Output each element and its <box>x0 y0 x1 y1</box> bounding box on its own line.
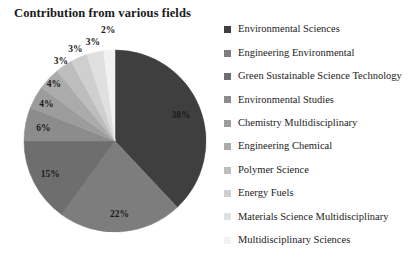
legend-swatch-icon <box>224 143 231 150</box>
legend-item[interactable]: Environmental Studies <box>224 88 418 111</box>
legend-item-label: Multidisciplinary Sciences <box>238 235 350 246</box>
pie-svg: 38%22%15%6%4%4%3%3%3%2% <box>0 0 220 258</box>
legend-item-label: Engineering Environmental <box>238 48 354 59</box>
legend-swatch-icon <box>224 190 231 197</box>
pie-chart-figure: Contribution from various fields 38%22%1… <box>0 0 418 258</box>
legend-item-label: Chemistry Multidisciplinary <box>238 118 357 129</box>
legend-item[interactable]: Chemistry Multidisciplinary <box>224 112 418 135</box>
legend-item-label: Energy Fuels <box>238 188 294 199</box>
pie-slice-label: 2% <box>101 25 115 35</box>
legend-swatch-icon <box>224 73 231 80</box>
pie-slice-label: 22% <box>110 209 129 219</box>
legend-swatch-icon <box>224 120 231 127</box>
pie-slice-label: 3% <box>54 56 68 66</box>
legend-swatch-icon <box>224 237 231 244</box>
legend-item[interactable]: Energy Fuels <box>224 182 418 205</box>
legend-item-label: Materials Science Multidisciplinary <box>238 212 388 223</box>
legend-swatch-icon <box>224 50 231 57</box>
pie-slice-label: 15% <box>41 169 60 179</box>
legend-item[interactable]: Polymer Science <box>224 158 418 181</box>
legend-swatch-icon <box>224 96 231 103</box>
legend-item[interactable]: Engineering Environmental <box>224 41 418 64</box>
pie-slice-label: 4% <box>47 79 61 89</box>
pie-slice-label: 4% <box>39 99 53 109</box>
pie-plot-area: 38%22%15%6%4%4%3%3%3%2% <box>0 0 220 258</box>
chart-legend: Environmental SciencesEngineering Enviro… <box>224 18 418 252</box>
legend-swatch-icon <box>224 167 231 174</box>
legend-item[interactable]: Multidisciplinary Sciences <box>224 229 418 252</box>
legend-swatch-icon <box>224 26 231 33</box>
legend-item-label: Green Sustainable Science Technology <box>238 71 402 82</box>
legend-item[interactable]: Environmental Sciences <box>224 18 418 41</box>
legend-item-label: Engineering Chemical <box>238 141 332 152</box>
legend-item[interactable]: Engineering Chemical <box>224 135 418 158</box>
legend-item-label: Environmental Sciences <box>238 24 340 35</box>
legend-item[interactable]: Materials Science Multidisciplinary <box>224 205 418 228</box>
pie-slice-label: 6% <box>36 123 50 133</box>
legend-swatch-icon <box>224 213 231 220</box>
legend-item-label: Polymer Science <box>238 165 309 176</box>
pie-slice-label: 38% <box>172 110 191 120</box>
legend-item[interactable]: Green Sustainable Science Technology <box>224 65 418 88</box>
pie-slice-label: 3% <box>68 44 82 54</box>
legend-item-label: Environmental Studies <box>238 95 334 106</box>
pie-slice-label: 3% <box>86 37 100 47</box>
